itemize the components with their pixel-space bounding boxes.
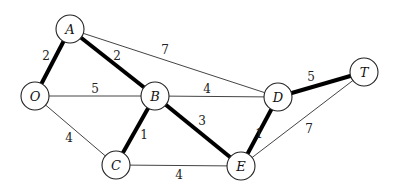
edge-e-t	[241, 72, 364, 166]
nodes-layer: OABCDET	[21, 15, 378, 180]
edge-weight-c-e: 4	[175, 168, 183, 182]
edge-weight-b-e: 3	[198, 114, 206, 128]
edge-weight-e-t: 7	[305, 122, 313, 136]
node-label: E	[235, 159, 246, 174]
edge-weight-d-e: 1	[255, 127, 263, 141]
edge-weight-a-b: 2	[113, 49, 121, 63]
edge-o-c	[35, 96, 116, 165]
edge-weight-o-b: 5	[91, 82, 99, 96]
edge-c-e	[116, 165, 241, 166]
node-label: O	[30, 89, 41, 104]
edge-weight-o-a: 2	[42, 49, 50, 63]
node-label: A	[64, 22, 74, 37]
edges-layer	[35, 29, 364, 166]
node-d: D	[264, 83, 292, 111]
edge-weight-o-c: 4	[65, 131, 73, 145]
edge-weight-d-t: 5	[307, 70, 315, 84]
edge-weight-a-d: 7	[161, 43, 169, 57]
node-label: C	[111, 158, 121, 173]
node-label: D	[272, 90, 284, 105]
node-a: A	[56, 15, 84, 43]
node-c: C	[102, 151, 130, 179]
node-o: O	[21, 82, 49, 110]
node-e: E	[227, 152, 255, 180]
edge-a-d	[70, 29, 278, 97]
edge-b-e	[155, 96, 241, 166]
edge-b-d	[155, 96, 278, 97]
node-label: T	[360, 65, 370, 80]
node-label: B	[149, 89, 160, 104]
node-b: B	[141, 82, 169, 110]
weighted-graph-diagram: 227541434157 OABCDET	[0, 0, 398, 191]
edge-weight-b-c: 1	[140, 128, 148, 142]
node-t: T	[350, 58, 378, 86]
edge-weight-b-d: 4	[203, 82, 211, 96]
edge-weights-layer: 227541434157	[42, 43, 315, 182]
